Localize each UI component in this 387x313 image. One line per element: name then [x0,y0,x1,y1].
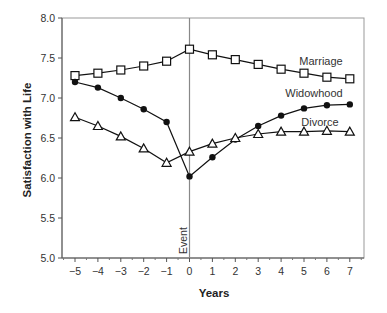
circle-marker [118,95,124,101]
square-marker [117,66,125,74]
chart: 5.05.56.06.57.07.58.0 −5−4−3−2−101234567… [0,0,387,313]
circle-marker [278,112,284,118]
x-tick-label: 5 [301,265,307,277]
triangle-marker [162,158,171,166]
circle-marker [186,173,192,179]
y-tick-label: 7.5 [40,52,55,64]
circle-marker [141,106,147,112]
circle-marker [301,105,307,111]
x-tick-label: −1 [161,265,173,277]
circle-marker [209,154,215,160]
square-marker [163,57,171,65]
square-marker [254,60,262,68]
series-label-divorce: Divorce [301,116,338,128]
y-axis-title: Satisfaction with Life [21,82,33,197]
x-tick-label: −5 [69,265,81,277]
square-marker [231,56,239,64]
x-tick-label: −4 [92,265,104,277]
square-marker [71,72,79,80]
triangle-marker [116,132,125,140]
triangle-marker [139,144,148,152]
x-tick-label: 4 [278,265,284,277]
y-tick-label: 7.0 [40,92,55,104]
x-tick-label: −2 [138,265,150,277]
square-marker [186,45,194,53]
square-marker [94,69,102,77]
circle-marker [72,79,78,85]
square-marker [208,51,216,59]
square-marker [300,69,308,77]
y-tick-label: 5.5 [40,212,55,224]
square-marker [277,65,285,73]
x-tick-label: 2 [232,265,238,277]
x-axis-title: Years [199,287,230,299]
circle-marker [347,101,353,107]
x-tick-label: 6 [324,265,330,277]
y-tick-label: 5.0 [40,252,55,264]
square-marker [346,75,354,83]
x-tick-label: 7 [347,265,353,277]
y-tick-label: 6.0 [40,172,55,184]
circle-marker [255,123,261,129]
y-axis: 5.05.56.06.57.07.58.0 [40,12,62,264]
x-axis: −5−4−3−2−101234567 [64,258,362,277]
y-tick-label: 6.5 [40,132,55,144]
square-marker [140,62,148,70]
x-tick-label: 3 [255,265,261,277]
square-marker [323,73,331,81]
x-tick-label: 1 [209,265,215,277]
triangle-marker [93,122,102,130]
x-tick-label: 0 [187,265,193,277]
series-label-widowhood: Widowhood [285,87,342,99]
y-tick-label: 8.0 [40,12,55,24]
x-tick-label: −3 [115,265,127,277]
triangle-marker [71,113,80,121]
series-label-marriage: Marriage [299,55,342,67]
circle-marker [324,102,330,108]
circle-marker [95,84,101,90]
event-label: Event [177,227,189,254]
circle-marker [163,119,169,125]
